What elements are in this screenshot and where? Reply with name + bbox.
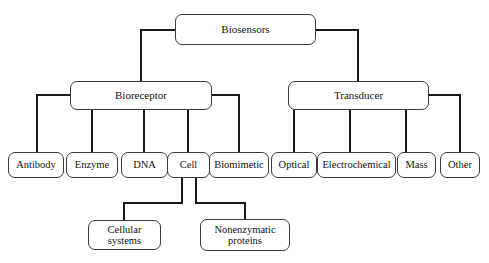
edge-cell-nonenzymatic-proteins [196, 178, 245, 219]
node-enzyme-label: Enzyme [72, 159, 112, 170]
edge-root-transducer [316, 30, 358, 81]
node-electrochemical[interactable]: Electrochemical [317, 152, 396, 178]
node-dna-label: DNA [130, 159, 159, 170]
edge-bioreceptor-antibody [37, 95, 70, 152]
node-optical[interactable]: Optical [271, 152, 317, 178]
node-mass[interactable]: Mass [397, 152, 436, 178]
node-antibody[interactable]: Antibody [8, 152, 64, 178]
node-bioreceptor-label: Bioreceptor [112, 90, 170, 102]
node-biomimetic[interactable]: Biomimetic [209, 152, 269, 178]
node-nonenzymatic-proteins-label: Nonenzymatic proteins [211, 224, 278, 247]
node-transducer[interactable]: Transducer [288, 81, 429, 110]
node-transducer-label: Transducer [331, 90, 386, 102]
node-other-label: Other [445, 159, 475, 170]
edge-cell-cellular-systems [124, 178, 182, 220]
node-electrochemical-label: Electrochemical [319, 159, 393, 170]
node-cellular-systems-label: Cellular systems [89, 224, 160, 247]
edge-bioreceptor-biomimetic [212, 95, 239, 152]
node-dna[interactable]: DNA [121, 152, 168, 178]
node-bioreceptor[interactable]: Bioreceptor [70, 81, 212, 110]
node-antibody-label: Antibody [13, 159, 59, 170]
node-biosensors[interactable]: Biosensors [175, 14, 316, 45]
edge-root-bioreceptor [141, 30, 175, 81]
edge-transducer-other [429, 95, 460, 152]
node-other[interactable]: Other [440, 152, 480, 178]
node-cellular-systems[interactable]: Cellular systems [88, 220, 161, 250]
biosensor-classification-diagram: Biosensors Bioreceptor Transducer Antibo… [0, 0, 489, 263]
node-cell-label: Cell [177, 159, 201, 170]
node-cell[interactable]: Cell [167, 152, 210, 178]
node-enzyme[interactable]: Enzyme [66, 152, 118, 178]
node-optical-label: Optical [276, 159, 313, 170]
node-mass-label: Mass [402, 159, 430, 170]
node-biosensors-label: Biosensors [218, 24, 272, 36]
node-biomimetic-label: Biomimetic [211, 159, 267, 170]
node-nonenzymatic-proteins[interactable]: Nonenzymatic proteins [200, 219, 290, 251]
